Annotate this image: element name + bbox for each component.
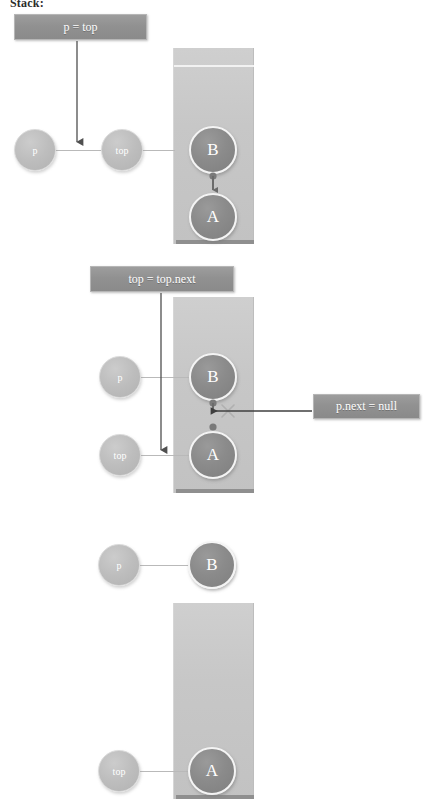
step3-node-a[interactable]: A [188, 747, 236, 795]
step1-annotation-text: p = top [63, 20, 97, 35]
step2-annotation-top-equals-topnext[interactable]: top = top.next [90, 266, 234, 292]
step3-node-a-label: A [206, 761, 218, 781]
step3-link-top-to-a [140, 771, 195, 772]
step2-annotation-pnext-text: p.next = null [336, 399, 397, 414]
step1-stack-top-rule [174, 65, 254, 67]
step1-pointer-p[interactable]: p [14, 129, 56, 171]
step1-annotation-p-equals-top[interactable]: p = top [14, 14, 147, 40]
step1-node-a[interactable]: A [189, 193, 237, 241]
step2-stack-base [176, 489, 254, 493]
step2-annotation-pnext-null[interactable]: p.next = null [313, 394, 420, 419]
step2-pointer-top[interactable]: top [99, 434, 141, 476]
step2-annotation-top-text: top = top.next [128, 272, 195, 287]
step1-node-b[interactable]: B [189, 126, 237, 174]
step1-node-b-label: B [207, 140, 218, 160]
step3-node-b-label: B [206, 555, 217, 575]
step3-pointer-top[interactable]: top [98, 750, 140, 792]
step1-node-a-label: A [207, 207, 219, 227]
step3-node-b[interactable]: B [188, 541, 236, 589]
step2-node-b-label: B [207, 367, 218, 387]
step3-stack-base [176, 795, 254, 799]
step2-node-a[interactable]: A [189, 431, 237, 479]
step2-pointer-p-label: p [118, 372, 123, 383]
step1-pointer-p-label: p [33, 145, 38, 156]
step2-link-p-to-b [141, 377, 196, 378]
diagram-canvas: Stack: p = top p top B A top = top.next … [0, 0, 423, 803]
step2-node-b[interactable]: B [189, 353, 237, 401]
step2-link-top-to-a [141, 455, 196, 456]
step3-link-p-to-b [140, 565, 195, 566]
step2-node-a-label: A [207, 445, 219, 465]
step1-pointer-top-label: top [116, 145, 129, 156]
step3-pointer-p[interactable]: p [98, 544, 140, 586]
step3-pointer-p-label: p [117, 560, 122, 571]
page-title: Stack: [10, 0, 44, 11]
step2-pointer-top-label: top [114, 450, 127, 461]
step3-pointer-top-label: top [113, 766, 126, 777]
step1-pointer-top[interactable]: top [101, 129, 143, 171]
step2-pointer-p[interactable]: p [99, 356, 141, 398]
